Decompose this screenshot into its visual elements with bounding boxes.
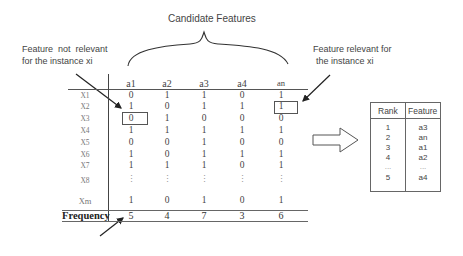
cell: 0 [227, 113, 257, 123]
ellipsis-cell: ⋮ [266, 174, 296, 184]
ranking-header-feature: Feature [408, 106, 437, 116]
row-label: Xm [70, 196, 100, 206]
feature-value: a2 [406, 153, 440, 162]
cell: 1 [227, 149, 257, 159]
column-header-a2: a2 [152, 78, 182, 89]
feature-value: a4 [406, 173, 440, 182]
cell: 0 [189, 113, 219, 123]
row-label: X1 [70, 91, 100, 100]
cell: 1 [116, 160, 146, 170]
row-label: X6 [70, 150, 100, 159]
rank-value: 1 [371, 123, 405, 132]
cell: 1 [189, 149, 219, 159]
frequency-value: 3 [227, 210, 257, 221]
cell: 1 [227, 101, 257, 111]
row-label: X8 [70, 176, 100, 185]
arrow-relevant-icon [303, 75, 330, 101]
frequency-label: Frequency [62, 210, 110, 221]
cell: 0 [227, 90, 257, 100]
cell: 1 [189, 160, 219, 170]
cell: 0 [152, 195, 182, 205]
cell: 1 [116, 125, 146, 135]
row-label-divider [108, 74, 109, 222]
rank-value: 3 [371, 143, 405, 152]
cell: 1 [189, 137, 219, 147]
cell: 1 [266, 160, 296, 170]
cell: 1 [116, 101, 146, 111]
rank-ellipsis: ... [371, 162, 405, 171]
column-header-an: an [266, 78, 296, 88]
cell: 1 [266, 125, 296, 135]
ellipsis-cell: ⋮ [152, 174, 182, 184]
cell: 1 [116, 149, 146, 159]
cell: 1 [189, 90, 219, 100]
cell: 1 [266, 90, 296, 100]
frequency-value: 4 [152, 210, 182, 221]
rank-value: 2 [371, 133, 405, 142]
cell: 0 [227, 195, 257, 205]
cell: 0 [227, 137, 257, 147]
ranking-table: Rank Feature 1 a3 2 an 3 a1 4 a2 ... ...… [370, 102, 441, 192]
cell: 0 [152, 101, 182, 111]
column-header-a3: a3 [189, 78, 219, 89]
frequency-value: 7 [189, 210, 219, 221]
cell: 1 [266, 149, 296, 159]
frequency-value: 6 [266, 210, 296, 221]
cell: 1 [189, 195, 219, 205]
cell: 1 [152, 125, 182, 135]
ellipsis-cell: ⋮ [227, 174, 257, 184]
cell: 1 [189, 125, 219, 135]
cell: 0 [266, 113, 296, 123]
cell: 0 [152, 137, 182, 147]
row-label: X2 [70, 102, 100, 111]
cell: 0 [227, 160, 257, 170]
column-header-a1: a1 [116, 78, 146, 89]
cell: 0 [116, 90, 146, 100]
rank-value: 4 [371, 153, 405, 162]
ellipsis-cell: ⋮ [189, 174, 219, 184]
cell: 1 [227, 125, 257, 135]
cell: 1 [116, 195, 146, 205]
column-header-a4: a4 [227, 78, 257, 89]
cell: 1 [152, 90, 182, 100]
cell: 0 [266, 137, 296, 147]
cell: 1 [152, 113, 182, 123]
block-arrow-right-icon [312, 127, 360, 153]
cell: 0 [116, 137, 146, 147]
highlight-box-relevant [274, 101, 298, 114]
row-label: X3 [70, 114, 100, 123]
highlight-box-not-relevant [122, 112, 148, 125]
cell: 1 [266, 195, 296, 205]
frequency-value: 5 [116, 210, 146, 221]
cell: 1 [152, 160, 182, 170]
row-label: X4 [70, 126, 100, 135]
row-label: X7 [70, 161, 100, 170]
feature-value: an [406, 133, 440, 142]
cell: 1 [189, 101, 219, 111]
feature-value: a1 [406, 143, 440, 152]
ranking-header-rank: Rank [378, 106, 398, 116]
rank-value: 5 [371, 173, 405, 182]
frequency-bottom-line [62, 221, 308, 222]
cell: 0 [152, 149, 182, 159]
row-label: X5 [70, 138, 100, 147]
ellipsis-cell: ⋮ [116, 174, 146, 184]
feature-value: a3 [406, 123, 440, 132]
feature-ellipsis: ... [406, 162, 440, 171]
